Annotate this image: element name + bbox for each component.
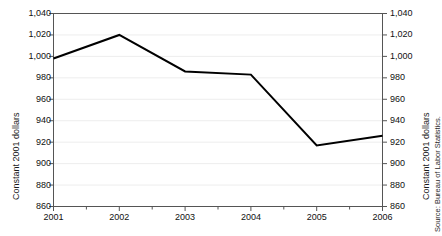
y-axis-tick-label-right: 900 [390, 159, 405, 168]
y-axis-label-right: Constant 2001 dollars [422, 112, 431, 200]
y-axis-tick-label-right: 960 [390, 95, 405, 104]
y-axis-tick-label-right: 880 [390, 181, 405, 190]
x-axis-tick-label: 2006 [363, 213, 403, 222]
x-axis-tick-label: 2004 [231, 213, 271, 222]
y-axis-label-left: Constant 2001 dollars [12, 112, 21, 200]
y-axis-tick-label-right: 920 [390, 138, 405, 147]
y-axis-tick-label-right: 1,000 [390, 52, 413, 61]
y-axis-tick-label-left: 1,040 [28, 9, 51, 18]
y-axis-tick-label-right: 860 [390, 202, 405, 211]
y-axis-tick-label-left: 960 [36, 95, 51, 104]
y-axis-tick-label-right: 940 [390, 116, 405, 125]
y-axis-tick-label-left: 940 [36, 116, 51, 125]
y-axis-tick-label-left: 860 [36, 202, 51, 211]
y-axis-tick-label-right: 1,020 [390, 30, 413, 39]
plot-background [54, 14, 383, 207]
x-axis-tick-label: 2001 [34, 213, 74, 222]
y-axis-tick-label-left: 900 [36, 159, 51, 168]
x-axis-tick-label: 2002 [99, 213, 139, 222]
y-axis-tick-label-right: 1,040 [390, 9, 413, 18]
y-axis-tick-label-left: 920 [36, 138, 51, 147]
source-note: Source: Bureau of Labor Statistics. [434, 116, 442, 232]
x-axis-tick-label: 2003 [165, 213, 205, 222]
y-axis-tick-label-left: 1,020 [28, 30, 51, 39]
x-axis-tick-label: 2005 [297, 213, 337, 222]
y-axis-tick-label-right: 980 [390, 73, 405, 82]
y-axis-tick-label-left: 880 [36, 181, 51, 190]
y-axis-tick-label-left: 980 [36, 73, 51, 82]
y-axis-tick-label-left: 1,000 [28, 52, 51, 61]
x-axis-ticks [54, 207, 383, 212]
